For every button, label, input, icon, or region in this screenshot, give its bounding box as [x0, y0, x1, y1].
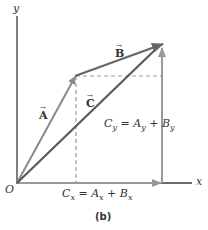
vector-a-arrow — [17, 77, 75, 183]
vector-a-label: →A — [39, 110, 48, 121]
vector-c-label: →C — [86, 98, 95, 109]
cy-equation: Cy = Ay + By — [104, 118, 175, 132]
origin-label: O — [5, 184, 14, 195]
y-axis-label: y — [13, 3, 19, 14]
vector-b-label: →B — [115, 48, 124, 59]
cx-equation: Cx = Ax + Bx — [62, 188, 132, 202]
figure-caption: (b) — [95, 212, 111, 222]
vector-addition-diagram: y x O →A →B →C Cy = Ay + By Cx = Ax + Bx… — [0, 0, 208, 230]
x-axis-label: x — [196, 176, 202, 187]
